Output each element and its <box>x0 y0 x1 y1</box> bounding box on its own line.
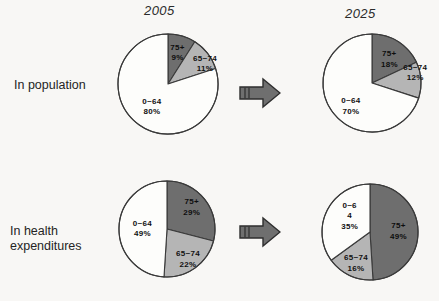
right-block-arrow-icon-top <box>239 77 281 109</box>
pie-svg <box>322 33 423 134</box>
pie-chart-health-2005: 75+ 29%65~74 22%0~64 49% <box>118 180 217 279</box>
pie-chart-health-2025: 75+ 49%65~74 16%0~6 4 35% <box>321 183 420 282</box>
pie-svg <box>117 33 220 136</box>
row-label-in-population: In population <box>14 78 86 93</box>
right-block-arrow-icon-bottom <box>239 216 281 248</box>
pie-svg <box>118 180 217 279</box>
pie-chart-population-2025: 75+ 18%65~74 12%0~64 70% <box>322 33 423 134</box>
pie-slice <box>370 184 418 280</box>
pie-chart-population-2005: 75+ 9%65~74 11%0~64 80% <box>117 33 220 136</box>
row-label-in-health-expenditures: In health expenditures <box>10 224 82 254</box>
column-title-2025: 2025 <box>345 6 376 21</box>
pie-slice <box>119 181 167 277</box>
pie-svg <box>321 183 420 282</box>
pie-chart-figure: 2005 2025 In population In health expend… <box>0 0 439 301</box>
column-title-2005: 2005 <box>144 3 175 18</box>
